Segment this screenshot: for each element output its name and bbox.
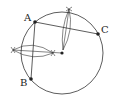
point-a bbox=[33, 20, 37, 24]
arc-cross-mark-right bbox=[51, 50, 55, 56]
bisector-ab-construction bbox=[11, 45, 62, 57]
label-a: A bbox=[23, 12, 32, 23]
label-c: C bbox=[101, 24, 109, 35]
chord-ab bbox=[31, 22, 35, 79]
center-point bbox=[60, 51, 63, 54]
point-b bbox=[29, 77, 33, 81]
geometry-diagram: A C B bbox=[0, 0, 116, 104]
label-b: B bbox=[20, 77, 27, 88]
point-c bbox=[96, 32, 100, 36]
